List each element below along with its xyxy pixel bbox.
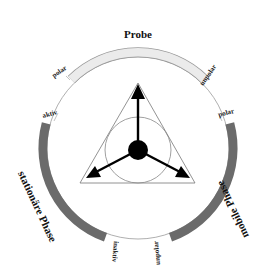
stationary-inaktiv-label: inaktiv [110, 241, 120, 263]
probe-polar-label: polar [51, 64, 69, 80]
center-dot [128, 140, 148, 160]
stationary-aktiv-label: aktiv [41, 108, 58, 120]
triangle-diagram: Probe polar unpolar aktiv polar inaktiv … [0, 0, 276, 274]
mobile-unpolar-label: unpolar [152, 241, 162, 265]
mobile-phase-label: mobile Phase [214, 179, 251, 240]
stationary-phase-arc [43, 123, 106, 237]
arrow-left-head [86, 166, 101, 178]
probe-arc [71, 52, 204, 79]
probe-title: Probe [124, 28, 152, 40]
arrow-right-head [175, 166, 190, 178]
